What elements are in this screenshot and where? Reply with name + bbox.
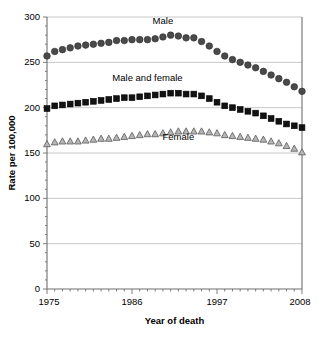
data-point [230, 105, 236, 111]
data-point [136, 36, 143, 43]
data-point [191, 91, 197, 97]
data-point [51, 48, 58, 55]
data-point [221, 131, 228, 137]
data-point [260, 136, 267, 142]
data-point [129, 132, 136, 138]
series-label-male: Male [153, 15, 174, 26]
data-point [206, 96, 212, 102]
chart-figure: 0501001502002503001975198619972008MaleMa… [0, 0, 330, 337]
data-point [237, 59, 244, 66]
data-point [276, 75, 283, 82]
data-point [67, 45, 74, 52]
data-point [121, 95, 127, 101]
data-point [276, 118, 282, 124]
data-point [299, 88, 306, 95]
data-point [113, 134, 120, 140]
data-point [67, 138, 74, 144]
x-axis-title: Year of death [145, 315, 205, 326]
data-point [299, 149, 306, 155]
data-point [59, 46, 66, 53]
data-point [136, 131, 143, 137]
y-tick-label-0: 0 [35, 283, 40, 294]
x-tick-label-1997: 1997 [206, 296, 227, 307]
data-point [198, 128, 205, 134]
data-point [284, 121, 290, 127]
data-point [144, 36, 151, 43]
data-point [283, 79, 290, 86]
series-male [44, 32, 306, 95]
data-point [214, 130, 221, 136]
data-point [260, 68, 267, 75]
data-point [121, 133, 128, 139]
data-point [59, 138, 66, 144]
data-point [253, 110, 259, 116]
data-point [252, 135, 259, 141]
data-point [198, 38, 205, 45]
data-point [283, 142, 290, 148]
y-tick-label-300: 300 [24, 11, 40, 22]
data-point [83, 99, 89, 105]
data-point [260, 113, 266, 119]
y-tick-label-100: 100 [24, 192, 40, 203]
data-point [129, 36, 136, 43]
data-point [90, 136, 97, 142]
data-point [90, 41, 97, 48]
rate-per-100000-line-chart: 0501001502002503001975198619972008MaleMa… [0, 0, 330, 337]
series-male-and-female [44, 90, 305, 130]
y-tick-label-50: 50 [29, 238, 40, 249]
data-point [82, 42, 89, 49]
y-tick-label-250: 250 [24, 56, 40, 67]
data-point [44, 106, 50, 112]
y-tick-label-150: 150 [24, 147, 40, 158]
series-label-female: Female [163, 131, 195, 142]
data-point [82, 137, 89, 143]
data-point [51, 139, 58, 145]
data-point [214, 99, 220, 105]
y-axis-title: Rate per 100,000 [6, 116, 17, 191]
data-point [75, 100, 81, 106]
data-point [106, 39, 113, 46]
data-point [183, 91, 189, 97]
data-point [160, 91, 166, 97]
data-point [52, 103, 58, 109]
data-point [145, 93, 151, 99]
data-point [60, 102, 66, 108]
data-point [268, 72, 275, 79]
y-tick-label-200: 200 [24, 102, 40, 113]
data-point [67, 101, 73, 107]
data-point [75, 43, 82, 50]
data-point [160, 34, 167, 41]
data-point [98, 135, 105, 141]
data-point [222, 103, 228, 109]
data-point [75, 138, 82, 144]
data-point [152, 35, 159, 42]
data-point [229, 56, 236, 63]
data-point [214, 48, 221, 55]
data-point [175, 33, 182, 40]
data-point [183, 35, 190, 42]
data-point [137, 94, 143, 100]
data-point [44, 141, 51, 147]
data-point [221, 53, 228, 60]
x-tick-label-1975: 1975 [38, 296, 59, 307]
data-point [252, 64, 259, 71]
data-point [206, 129, 213, 135]
data-point [106, 97, 112, 103]
data-point [299, 125, 305, 131]
x-tick-label-1986: 1986 [121, 296, 142, 307]
data-point [191, 35, 198, 42]
data-point [44, 53, 51, 60]
data-point [144, 131, 151, 137]
data-point [152, 131, 159, 137]
data-point [98, 98, 104, 104]
data-point [291, 84, 298, 91]
data-point [129, 95, 135, 101]
data-point [167, 32, 174, 39]
data-point [90, 98, 96, 104]
series-label-male-and-female: Male and female [112, 72, 182, 83]
data-point [237, 107, 243, 113]
data-point [275, 140, 282, 146]
data-point [105, 135, 112, 141]
data-point [98, 40, 105, 47]
data-point [206, 43, 213, 50]
